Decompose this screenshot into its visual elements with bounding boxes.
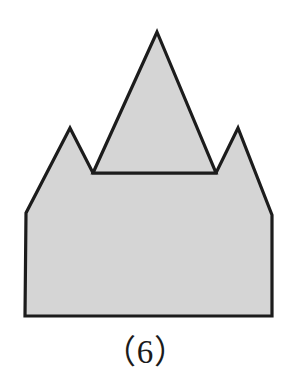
figure-caption: （6） xyxy=(0,330,291,374)
figure-panel: （6） xyxy=(0,0,291,387)
geometric-figure xyxy=(0,0,291,387)
